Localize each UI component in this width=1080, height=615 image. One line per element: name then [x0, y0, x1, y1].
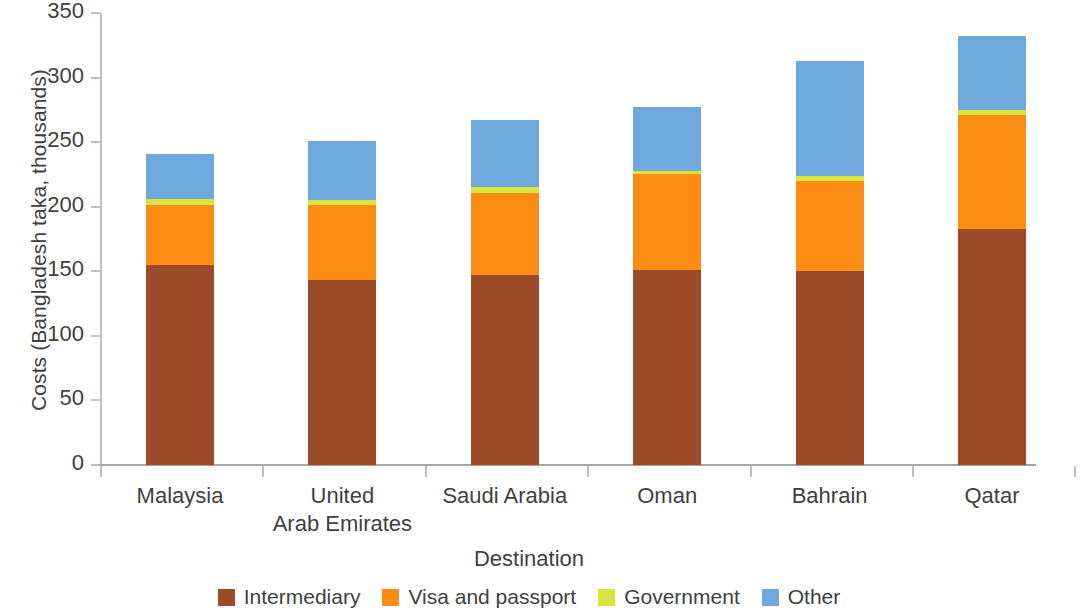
- y-axis-tick-label: 300: [47, 63, 84, 89]
- legend-label: Other: [788, 585, 841, 609]
- legend-swatch-icon: [218, 589, 235, 606]
- y-axis-tick-label: 150: [47, 256, 84, 282]
- legend-item-government[interactable]: Government: [598, 585, 740, 609]
- legend-label: Government: [624, 585, 740, 609]
- legend-item-visa-and-passport[interactable]: Visa and passport: [382, 585, 576, 609]
- bar-segment-other[interactable]: [633, 107, 701, 170]
- legend-label: Visa and passport: [408, 585, 576, 609]
- bar-segment-visa-and-passport[interactable]: [471, 193, 539, 276]
- bar-segment-other[interactable]: [308, 141, 376, 200]
- bar-segment-intermediary[interactable]: [633, 270, 701, 465]
- x-axis-title: Destination: [0, 546, 1058, 572]
- bar-qatar[interactable]: [958, 36, 1026, 465]
- bar-bahrain[interactable]: [796, 61, 864, 465]
- bar-segment-visa-and-passport[interactable]: [146, 205, 214, 264]
- x-axis-tick-mark: [100, 466, 102, 477]
- y-axis-tick-label: 250: [47, 127, 84, 153]
- y-axis-tick-label: 100: [47, 321, 84, 347]
- bar-segment-visa-and-passport[interactable]: [796, 181, 864, 271]
- y-axis-tick-mark: [91, 335, 100, 337]
- bar-segment-other[interactable]: [958, 36, 1026, 110]
- bar-segment-other[interactable]: [796, 61, 864, 176]
- x-axis-tick-mark: [425, 466, 427, 477]
- bar-segment-visa-and-passport[interactable]: [958, 115, 1026, 229]
- legend-item-intermediary[interactable]: Intermediary: [218, 585, 361, 609]
- bar-segment-intermediary[interactable]: [471, 275, 539, 465]
- x-axis-tick-mark: [587, 466, 589, 477]
- bar-saudi-arabia[interactable]: [471, 120, 539, 465]
- bar-segment-other[interactable]: [471, 120, 539, 187]
- x-axis-label-line: Arab Emirates: [242, 510, 442, 538]
- bar-segment-intermediary[interactable]: [958, 229, 1026, 465]
- y-axis-tick-mark: [91, 206, 100, 208]
- y-axis-tick-mark: [91, 270, 100, 272]
- legend-item-other[interactable]: Other: [762, 585, 841, 609]
- y-axis-tick-mark: [91, 399, 100, 401]
- bar-segment-intermediary[interactable]: [796, 271, 864, 465]
- x-axis-label-qatar: Qatar: [892, 482, 1080, 510]
- y-axis-tick-mark: [91, 77, 100, 79]
- x-axis-label-line: Qatar: [892, 482, 1080, 510]
- y-axis-tick-mark: [91, 12, 100, 14]
- y-axis-tick-label: 0: [72, 450, 84, 476]
- plot-area: [100, 13, 1036, 465]
- x-axis-tick-mark: [912, 466, 914, 477]
- y-axis-tick-mark: [91, 464, 100, 466]
- y-axis-tick-label: 50: [60, 385, 84, 411]
- bar-segment-intermediary[interactable]: [308, 280, 376, 465]
- y-axis-tick-mark: [91, 141, 100, 143]
- y-axis-tick-label: 200: [47, 192, 84, 218]
- bar-united-arab-emirates[interactable]: [308, 141, 376, 465]
- bar-segment-visa-and-passport[interactable]: [633, 174, 701, 270]
- bar-malaysia[interactable]: [146, 154, 214, 465]
- chart-legend: IntermediaryVisa and passportGovernmentO…: [0, 585, 1058, 609]
- x-axis-tick-mark: [1074, 466, 1076, 477]
- bar-segment-intermediary[interactable]: [146, 265, 214, 465]
- x-axis-tick-mark: [750, 466, 752, 477]
- legend-swatch-icon: [382, 589, 399, 606]
- bar-oman[interactable]: [633, 107, 701, 465]
- x-axis-tick-mark: [262, 466, 264, 477]
- bar-segment-other[interactable]: [146, 154, 214, 199]
- legend-swatch-icon: [762, 589, 779, 606]
- bar-segment-visa-and-passport[interactable]: [308, 205, 376, 280]
- legend-label: Intermediary: [244, 585, 361, 609]
- y-axis-tick-label: 350: [47, 0, 84, 24]
- legend-swatch-icon: [598, 589, 615, 606]
